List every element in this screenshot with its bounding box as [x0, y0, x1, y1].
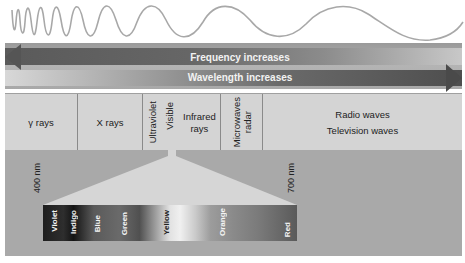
color-violet: Violet: [50, 210, 59, 232]
color-blue: Blue: [93, 215, 102, 232]
label-700nm: 700 nm: [286, 163, 296, 193]
color-orange: Orange: [218, 208, 227, 236]
color-red: Red: [283, 222, 292, 237]
color-indigo: Indigo: [69, 210, 78, 234]
label-400nm: 400 nm: [32, 163, 42, 193]
color-green: Green: [120, 212, 129, 235]
color-yellow: Yellow: [162, 210, 171, 235]
